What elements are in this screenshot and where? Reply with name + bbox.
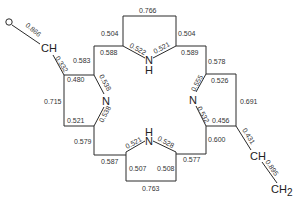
ch-left-label: CH — [41, 42, 57, 54]
left-ring: N 0.480 0.715 0.521 0.538 0.538 — [44, 73, 113, 126]
bond-label-right-n-bottom: 0.532 — [196, 105, 210, 124]
right-ring: N 0.526 0.691 0.456 0.555 0.532 — [189, 74, 258, 126]
molecule-diagram: CH 0.866 0.332 N 0.480 0.715 0.521 0.538… — [0, 0, 303, 205]
bond-label-top-ring-top: 0.766 — [139, 7, 157, 14]
vinyl-group: CH CH2 0.431 0.895 — [236, 126, 293, 198]
bond-label-left-meso-bottom: 0.579 — [74, 138, 92, 145]
bond-label-right-top-inner: 0.526 — [211, 77, 229, 84]
bond-label-left-bottom-inner: 0.521 — [67, 117, 85, 124]
formyl-group: CH 0.866 0.332 — [6, 19, 70, 75]
bond-label-ring-ch-right: 0.431 — [241, 127, 256, 146]
bond-label-right-outer: 0.691 — [240, 98, 258, 105]
bond-label-bottom-ring-right: 0.508 — [157, 165, 175, 172]
bond-label-right-meso-bottom: 0.600 — [208, 136, 226, 143]
bond-label-top-n-right: 0.521 — [152, 40, 171, 54]
bond-label-top-meso-left: 0.588 — [100, 49, 118, 56]
n-right-label: N — [189, 94, 197, 106]
h-top-label: H — [145, 64, 153, 76]
bond-label-right-meso-top: 0.578 — [208, 58, 226, 65]
ch-right-label: CH — [250, 150, 266, 162]
bond-label-bottom-ring-left: 0.507 — [129, 165, 147, 172]
n-bottom-label: N — [145, 135, 153, 147]
top-ring: N H 0.766 0.504 0.504 0.522 0.521 — [101, 7, 196, 76]
ch2-label: CH2 — [271, 183, 293, 198]
bond-label-left-meso-top: 0.583 — [73, 57, 91, 64]
bond-label-left-top-inner: 0.480 — [67, 76, 85, 83]
bond-label-bottom-meso-right: 0.577 — [183, 156, 201, 163]
bond-label-top-ring-left: 0.504 — [101, 30, 119, 37]
bond-label-bottom-ring-bottom: 0.763 — [142, 185, 160, 192]
bond-label-ch-ring: 0.332 — [54, 55, 69, 74]
bond-label-left-n-top: 0.538 — [98, 73, 112, 92]
bond-label-left-n-bottom: 0.538 — [98, 105, 112, 124]
bottom-ring: H N 0.521 0.528 0.507 0.508 0.763 — [124, 126, 176, 192]
bond-label-left-outer: 0.715 — [44, 98, 62, 105]
bond-label-bottom-meso-left: 0.587 — [101, 158, 119, 165]
o-label: O — [5, 16, 14, 28]
bond-label-top-meso-right: 0.589 — [181, 49, 199, 56]
bond-label-top-ring-right: 0.504 — [178, 30, 196, 37]
bond-label-right-n-top: 0.555 — [190, 74, 204, 93]
bond-label-right-bottom-inner: 0.456 — [212, 117, 230, 124]
